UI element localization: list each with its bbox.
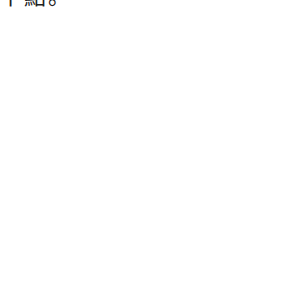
- go-board: [0, 0, 283, 292]
